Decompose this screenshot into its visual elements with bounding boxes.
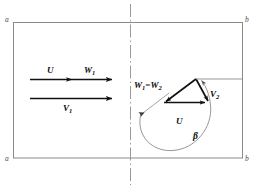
label-w1-equals-w2: W1=W2 bbox=[134, 81, 162, 91]
label-triangle-u: U bbox=[176, 117, 183, 126]
reference-line-diagonal-arrowhead bbox=[138, 112, 144, 117]
label-w2-subscript: 2 bbox=[158, 84, 161, 91]
label-w1-base: W bbox=[134, 80, 142, 90]
corner-label-top-right: b bbox=[245, 16, 249, 24]
label-upstream-v1-subscript: 1 bbox=[69, 107, 72, 114]
corner-label-bottom-left: a bbox=[5, 155, 9, 163]
corner-label-top-left: a bbox=[5, 16, 9, 24]
reference-line-diagonal bbox=[141, 93, 169, 115]
label-v2-subscript: 2 bbox=[216, 93, 219, 100]
control-volume-boundary bbox=[14, 23, 243, 159]
label-upstream-w1: W1 bbox=[84, 66, 95, 76]
label-v2: V2 bbox=[210, 90, 219, 100]
label-upstream-v1: V1 bbox=[63, 104, 72, 114]
label-upstream-u: U bbox=[47, 66, 54, 75]
triangle-vector-v2 bbox=[196, 79, 208, 101]
triangle-vector-w bbox=[166, 79, 196, 102]
label-beta-angle: β bbox=[193, 132, 198, 142]
velocity-triangle-figure: a b a b U W1 V1 W1=W2 V2 U β bbox=[0, 0, 255, 189]
label-upstream-w1-subscript: 1 bbox=[92, 69, 95, 76]
corner-label-bottom-right: b bbox=[245, 155, 249, 163]
label-upstream-w1-base: W bbox=[84, 65, 92, 75]
